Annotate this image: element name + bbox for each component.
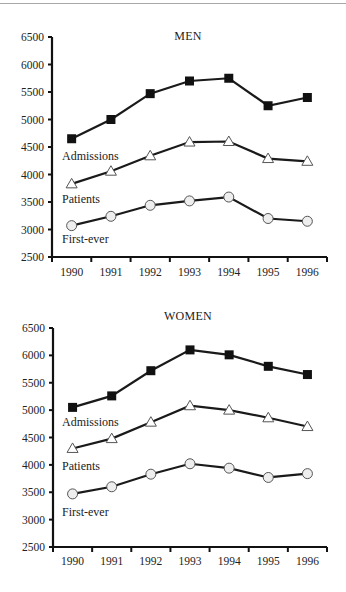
series-label-admissions: Admissions xyxy=(62,149,119,163)
y-tick-label: 6000 xyxy=(21,59,44,71)
x-tick-label: 1992 xyxy=(139,555,162,567)
square-marker xyxy=(68,403,77,412)
women-chart: WOMEN 2500300035004000450050005500600065… xyxy=(22,309,327,567)
y-tick-label: 2500 xyxy=(21,251,44,263)
x-tick-label: 1996 xyxy=(296,555,319,567)
circle-marker xyxy=(185,196,195,206)
series-label-first-ever: First-ever xyxy=(62,505,109,519)
circle-marker xyxy=(263,214,273,224)
y-tick-label: 3500 xyxy=(22,486,45,498)
series-label-patients: Patients xyxy=(62,459,100,473)
chart-title: WOMEN xyxy=(164,309,212,323)
men-chart: MEN 250030003500400045005000550060006500… xyxy=(21,29,327,278)
x-tick-label: 1991 xyxy=(99,266,122,278)
circle-marker xyxy=(224,192,234,202)
x-tick-label: 1993 xyxy=(179,555,202,567)
square-marker xyxy=(67,134,76,143)
x-tick-label: 1995 xyxy=(257,555,280,567)
x-tick-label: 1994 xyxy=(217,266,240,278)
square-marker xyxy=(107,391,116,400)
circle-marker xyxy=(302,469,312,479)
circle-marker xyxy=(224,463,234,473)
circle-marker xyxy=(146,469,156,479)
square-marker xyxy=(225,350,234,359)
y-tick-label: 6500 xyxy=(22,322,45,334)
square-marker xyxy=(264,362,273,371)
x-tick-label: 1991 xyxy=(100,555,123,567)
y-tick-label: 5000 xyxy=(21,114,44,126)
y-tick-label: 6000 xyxy=(22,349,45,361)
square-marker xyxy=(303,93,312,102)
y-tick-label: 5000 xyxy=(22,404,45,416)
square-marker xyxy=(224,74,233,83)
square-marker xyxy=(146,89,155,98)
line-charts: MEN 250030003500400045005000550060006500… xyxy=(0,0,346,592)
y-tick-label: 4000 xyxy=(22,459,45,471)
triangle-marker xyxy=(185,400,196,410)
y-tick-label: 4000 xyxy=(21,169,44,181)
y-tick-label: 5500 xyxy=(22,377,45,389)
y-tick-label: 4500 xyxy=(21,141,44,153)
circle-marker xyxy=(145,200,155,210)
x-tick-label: 1992 xyxy=(139,266,162,278)
square-marker xyxy=(185,77,194,86)
circle-marker xyxy=(302,216,312,226)
square-marker xyxy=(146,366,155,375)
circle-marker xyxy=(67,221,77,231)
square-marker xyxy=(106,115,115,124)
y-tick-label: 3000 xyxy=(21,224,44,236)
x-tick-label: 1994 xyxy=(218,555,241,567)
x-tick-label: 1996 xyxy=(296,266,319,278)
y-tick-label: 4500 xyxy=(22,432,45,444)
circle-marker xyxy=(106,211,116,221)
circle-marker xyxy=(68,489,78,499)
y-tick-label: 3000 xyxy=(22,514,45,526)
x-tick-label: 1995 xyxy=(257,266,280,278)
series-label-patients: Patients xyxy=(62,192,100,206)
square-marker xyxy=(186,345,195,354)
circle-marker xyxy=(107,482,117,492)
square-marker xyxy=(264,101,273,110)
x-tick-label: 1990 xyxy=(61,555,84,567)
square-marker xyxy=(303,370,312,379)
x-tick-label: 1993 xyxy=(178,266,201,278)
chart-title: MEN xyxy=(174,29,202,43)
circle-marker xyxy=(185,459,195,469)
series-label-admissions: Admissions xyxy=(62,415,119,429)
circle-marker xyxy=(263,472,273,482)
y-tick-label: 5500 xyxy=(21,86,44,98)
y-tick-label: 6500 xyxy=(21,31,44,43)
y-tick-label: 2500 xyxy=(22,541,45,553)
y-tick-label: 3500 xyxy=(21,196,44,208)
x-tick-label: 1990 xyxy=(60,266,83,278)
series-label-first-ever: First-ever xyxy=(62,232,109,246)
